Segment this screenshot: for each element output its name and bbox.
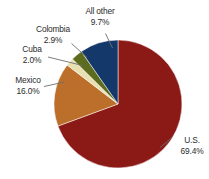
slice-label-cuba-value: 2.0% [9,55,55,66]
slice-label-us-value: 69.4% [174,146,209,157]
slice-label-mexico-value: 16.0% [3,86,52,97]
slice-label-mexico: Mexico 16.0% [3,75,52,96]
slice-label-cuba-name: Cuba [9,44,55,55]
pie-chart-figure: All other 9.7% Colombia 2.9% Cuba 2.0% M… [0,0,209,179]
slice-label-colombia-name: Colombia [26,24,81,35]
slice-label-all-other-name: All other [73,6,128,17]
pie-slice-group [54,40,182,168]
slice-label-cuba: Cuba 2.0% [9,44,55,65]
slice-label-all-other: All other 9.7% [73,6,128,27]
slice-label-colombia: Colombia 2.9% [26,24,81,45]
slice-label-all-other-value: 9.7% [73,17,128,28]
slice-label-mexico-name: Mexico [3,75,52,86]
slice-label-us-name: U.S. [174,135,209,146]
slice-label-us: U.S. 69.4% [174,135,209,156]
